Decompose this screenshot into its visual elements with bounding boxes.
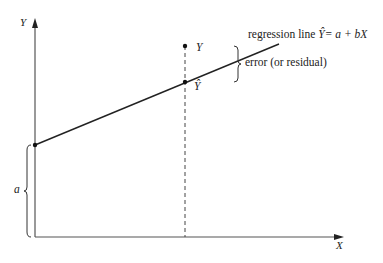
predicted-point bbox=[183, 80, 187, 84]
regression-diagram: Y X regression line Ŷ= a + bX Y Ŷ error … bbox=[0, 0, 383, 263]
error-brace bbox=[234, 46, 241, 82]
intercept-label: a bbox=[14, 184, 20, 196]
predicted-point-label: Ŷ bbox=[194, 81, 200, 93]
intercept-brace bbox=[24, 145, 31, 237]
observed-point bbox=[183, 44, 187, 48]
observed-point-label: Y bbox=[196, 42, 202, 54]
y-axis-label: Y bbox=[20, 17, 26, 28]
intercept-point bbox=[33, 143, 37, 147]
y-axis-arrowhead bbox=[32, 18, 38, 28]
regression-equation: Ŷ= a + bX bbox=[318, 28, 367, 40]
regression-line bbox=[35, 44, 279, 145]
error-label: error (or residual) bbox=[245, 57, 327, 69]
regression-line-label: regression line Ŷ= a + bX bbox=[248, 29, 367, 41]
x-axis-label: X bbox=[336, 240, 343, 251]
regression-line-label-prefix: regression line bbox=[248, 28, 315, 40]
